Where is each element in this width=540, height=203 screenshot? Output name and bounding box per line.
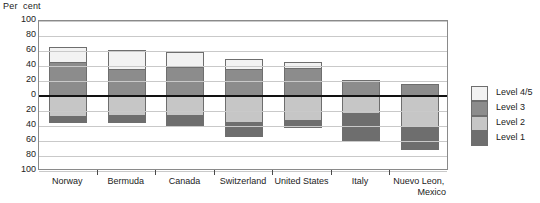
bar-segment [108,115,146,124]
chart-legend: Level 4/5Level 3Level 2Level 1 [471,86,537,146]
legend-swatch [471,116,488,131]
gridline [39,21,447,22]
gridline [39,126,447,127]
bar-segment [401,126,439,150]
x-axis-category-label: Switzerland [214,176,273,187]
gridline [39,81,447,82]
legend-label: Level 1 [496,132,525,142]
x-axis-tick [272,170,273,175]
x-axis-tick [214,170,215,175]
legend-swatch [471,86,488,101]
y-axis-tick-label: 40 [2,59,36,69]
legend-item[interactable]: Level 4/5 [471,86,537,101]
chart-container: Per cent 10080604020020406080100 NorwayB… [0,0,540,203]
y-axis-tick-label: 60 [2,134,36,144]
x-axis-category-label: United States [272,176,331,187]
gridline [39,66,447,67]
bar-segment [225,96,263,123]
y-axis-tick-label: 100 [2,164,36,174]
gridline [39,51,447,52]
legend-swatch [471,131,488,146]
legend-label: Level 2 [496,117,525,127]
gridline [39,141,447,142]
zero-axis-line [39,95,447,97]
gridline [39,156,447,157]
x-axis-tick [389,170,390,175]
bar-segment [49,116,87,122]
x-axis-category-label: Bermuda [97,176,156,187]
bar-segment [108,69,146,97]
y-axis-tick-label: 0 [2,89,36,99]
y-axis-tick-label: 80 [2,149,36,159]
x-axis-category-label: Nuevo Leon,Mexico [389,176,448,198]
y-axis-title: Per cent [3,1,41,11]
x-axis-category-label: Norway [38,176,97,187]
bar-segment [225,122,263,137]
x-axis-category-label: Canada [155,176,214,187]
gridline [39,171,447,172]
bar-segment [108,96,146,116]
legend-swatch [471,101,488,116]
legend-label: Level 3 [496,102,525,112]
bar-segment [225,59,263,70]
gridline [39,111,447,112]
plot-area [38,20,448,170]
y-axis-tick-label: 80 [2,29,36,39]
y-axis-tick-label: 20 [2,74,36,84]
x-axis-tick [155,170,156,175]
legend-item[interactable]: Level 3 [471,101,537,116]
y-axis-tick-label: 40 [2,119,36,129]
bar-segment [225,69,263,97]
y-axis-tick-label: 20 [2,104,36,114]
legend-item[interactable]: Level 2 [471,116,537,131]
legend-item[interactable]: Level 1 [471,131,537,146]
bar-segment [49,96,87,117]
x-axis-tick [331,170,332,175]
x-axis-tick [97,170,98,175]
gridline [39,36,447,37]
bar-segment [49,47,87,63]
y-axis-tick-labels: 10080604020020406080100 [0,20,36,170]
bar-segment [166,96,204,116]
y-axis-tick-label: 60 [2,44,36,54]
legend-label: Level 4/5 [496,87,533,97]
y-axis-tick-label: 100 [2,14,36,24]
bar-segment [284,96,322,121]
bar-segment [284,68,322,97]
x-axis-category-label: Italy [331,176,390,187]
